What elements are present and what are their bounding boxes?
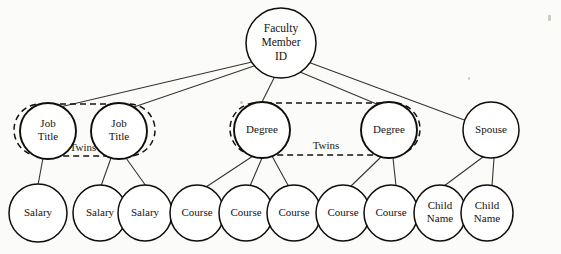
node-label-line: Job bbox=[40, 117, 56, 129]
edge-spouse-to-child1 bbox=[444, 157, 483, 186]
edge-root-to-degree2 bbox=[300, 72, 379, 105]
edge-degree1-to-course3 bbox=[272, 156, 289, 187]
scan-speck bbox=[468, 77, 470, 80]
er-attribute-hierarchy-diagram: TwinsTwins FacultyMemberIDJobTitleJobTit… bbox=[0, 0, 561, 254]
edge-job2-to-salary3 bbox=[126, 158, 146, 186]
twins-label: Twins bbox=[313, 139, 340, 151]
node-label-line: Salary bbox=[131, 206, 160, 218]
node-label-line: Salary bbox=[24, 206, 53, 218]
node-root[interactable]: FacultyMemberID bbox=[246, 8, 316, 78]
node-course4[interactable]: Course bbox=[316, 185, 370, 241]
node-label-line: Course bbox=[327, 206, 358, 218]
node-job2[interactable]: JobTitle bbox=[91, 103, 147, 159]
node-label-line: Name bbox=[474, 212, 500, 224]
edge-degree1-to-course2 bbox=[250, 158, 262, 186]
edge-root-to-job2 bbox=[131, 66, 254, 108]
node-salary1[interactable]: Salary bbox=[9, 184, 67, 242]
node-label-line: Course bbox=[375, 206, 406, 218]
node-label-line: Child bbox=[428, 199, 453, 211]
edge-root-to-degree1 bbox=[262, 78, 274, 102]
edge-root-to-job1 bbox=[60, 62, 252, 107]
node-degree2[interactable]: Degree bbox=[361, 102, 417, 158]
node-course1[interactable]: Course bbox=[170, 185, 224, 241]
node-label-line: Course bbox=[181, 206, 212, 218]
node-degree1[interactable]: Degree bbox=[234, 102, 290, 158]
node-course3[interactable]: Course bbox=[267, 185, 321, 241]
node-label-line: Salary bbox=[86, 206, 115, 218]
scan-speck bbox=[548, 15, 551, 21]
node-label-line: Spouse bbox=[475, 123, 507, 135]
node-child2[interactable]: ChildName bbox=[461, 185, 513, 241]
edge-job1-to-salary1 bbox=[38, 158, 43, 185]
diagram-canvas: TwinsTwins FacultyMemberIDJobTitleJobTit… bbox=[0, 0, 561, 254]
node-course2[interactable]: Course bbox=[219, 185, 273, 241]
edge-degree2-to-course5 bbox=[393, 158, 396, 186]
node-spouse[interactable]: Spouse bbox=[463, 102, 519, 158]
node-label-line: Course bbox=[230, 206, 261, 218]
node-label-line: Member bbox=[262, 36, 301, 48]
node-job1[interactable]: JobTitle bbox=[20, 103, 76, 159]
node-label-line: Name bbox=[427, 212, 453, 224]
node-label-line: Job bbox=[111, 117, 127, 129]
edge-degree2-to-course4 bbox=[350, 157, 381, 187]
scan-speck bbox=[240, 101, 243, 104]
node-label-line: ID bbox=[275, 50, 287, 62]
edge-job2-to-salary2 bbox=[101, 158, 111, 186]
edge-degree1-to-course1 bbox=[206, 156, 253, 187]
node-label-line: Degree bbox=[373, 123, 405, 135]
node-label-line: Title bbox=[38, 130, 59, 142]
node-label-line: Course bbox=[278, 206, 309, 218]
edge-spouse-to-child2 bbox=[492, 158, 494, 186]
node-layer: FacultyMemberIDJobTitleJobTitleDegreeDeg… bbox=[9, 8, 519, 242]
node-label-line: Child bbox=[475, 199, 500, 211]
node-course5[interactable]: Course bbox=[364, 185, 418, 241]
node-label-line: Degree bbox=[246, 123, 278, 135]
node-label-line: Faculty bbox=[264, 22, 299, 35]
node-salary3[interactable]: Salary bbox=[118, 185, 172, 241]
node-label-line: Title bbox=[109, 130, 130, 142]
node-child1[interactable]: ChildName bbox=[414, 185, 466, 241]
